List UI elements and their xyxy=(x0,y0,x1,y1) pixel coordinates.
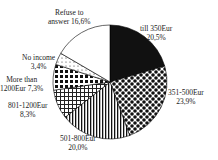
label-till-350: till 350Eur20,5% xyxy=(140,24,172,42)
label-801-1200: 801-1200Eur8,3% xyxy=(8,101,48,119)
label-refuse: Refuse toanswer 16,6% xyxy=(48,8,91,26)
label-no-income: No income3,4% xyxy=(22,53,55,71)
label-351-500: 351-500Eur23,9% xyxy=(168,88,204,106)
label-more-than-1200: More than1200Eur 7,3% xyxy=(0,75,43,93)
label-501-800: 501-800Eur20,0% xyxy=(60,134,96,152)
